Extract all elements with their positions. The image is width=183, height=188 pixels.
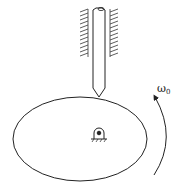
follower-rod: [93, 7, 105, 97]
cam-ellipse: [13, 97, 147, 181]
omega-subscript: 0: [166, 88, 170, 96]
omega-label: ω: [157, 82, 166, 95]
cam-follower-diagram: ω 0: [0, 0, 183, 188]
right-guide: [110, 9, 118, 57]
rotation-arrow-icon: [154, 97, 166, 175]
left-guide: [80, 9, 88, 57]
pivot-icon: [91, 128, 107, 142]
